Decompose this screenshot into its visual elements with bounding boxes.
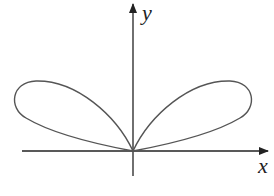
- x-axis-label: x: [257, 153, 268, 178]
- polar-curve-diagram: y x: [0, 0, 274, 196]
- right-lobe-curve: [133, 81, 251, 151]
- left-lobe-curve: [15, 81, 133, 151]
- y-axis-label: y: [140, 0, 152, 25]
